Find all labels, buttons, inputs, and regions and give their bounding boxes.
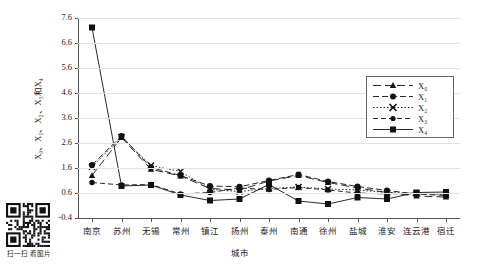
- legend-item-x3: X₃: [371, 113, 449, 124]
- y-tick-mark: [75, 193, 78, 194]
- y-tick-mark: [75, 168, 78, 169]
- legend-label-x3: X₃: [418, 114, 427, 124]
- gridline: [78, 68, 460, 69]
- qr-code-caption: 扫一扫 看图片: [2, 248, 56, 258]
- legend-item-x1: X₁: [371, 91, 449, 102]
- data-point: [89, 180, 94, 185]
- data-point: [237, 196, 243, 202]
- legend-marker-square-icon: [371, 124, 415, 135]
- legend: X₀ X₁ X₂ X₃ X₄: [366, 76, 454, 138]
- legend-marker-circle-icon: [371, 91, 415, 102]
- x-tick-mark: [446, 218, 447, 222]
- gridline: [78, 18, 460, 19]
- chart-figure: X₀、X₁、X₂、X₃和X₄ -0.40.61.62.63.64.65.66.6…: [0, 0, 478, 273]
- legend-label-x2: X₂: [418, 103, 427, 113]
- data-point: [119, 183, 125, 189]
- y-tick-label: 6.6: [38, 38, 72, 47]
- x-tick-mark: [122, 218, 123, 222]
- qr-code-image[interactable]: [6, 203, 50, 247]
- legend-label-x4: X₄: [418, 125, 427, 135]
- x-tick-label-12: 宿迁: [423, 224, 469, 236]
- legend-item-x4: X₄: [371, 124, 449, 135]
- data-point: [325, 201, 331, 207]
- y-tick-mark: [75, 68, 78, 69]
- y-tick-mark: [75, 43, 78, 44]
- x-tick-mark: [299, 218, 300, 222]
- legend-marker-cross-icon: [371, 102, 415, 113]
- data-point: [266, 187, 271, 192]
- x-tick-mark: [240, 218, 241, 222]
- data-point: [207, 198, 213, 204]
- x-axis-title: 城市: [180, 246, 300, 258]
- data-point: [89, 25, 95, 31]
- y-tick-label: 3.6: [38, 113, 72, 122]
- x-tick-mark: [92, 218, 93, 222]
- legend-marker-triangle-icon: [371, 80, 415, 91]
- legend-marker-circle-small-icon: [371, 113, 415, 124]
- gridline: [78, 168, 460, 169]
- y-tick-mark: [75, 93, 78, 94]
- data-point: [325, 187, 330, 192]
- y-tick-label: 0.6: [38, 188, 72, 197]
- gridline: [78, 193, 460, 194]
- y-tick-label: 7.6: [38, 13, 72, 22]
- legend-item-x2: X₂: [371, 102, 449, 113]
- x-tick-mark: [210, 218, 211, 222]
- gridline: [78, 43, 460, 44]
- x-tick-mark: [269, 218, 270, 222]
- y-tick-label: 2.6: [38, 138, 72, 147]
- gridline: [78, 143, 460, 144]
- data-point: [296, 198, 302, 204]
- data-point: [355, 195, 361, 201]
- legend-label-x1: X₁: [418, 92, 427, 102]
- y-tick-mark: [75, 118, 78, 119]
- y-tick-label: 1.6: [38, 163, 72, 172]
- data-point: [237, 185, 242, 190]
- x-tick-mark: [151, 218, 152, 222]
- x-tick-mark: [358, 218, 359, 222]
- data-point: [148, 182, 154, 188]
- x-tick-mark: [328, 218, 329, 222]
- data-point: [296, 185, 301, 190]
- data-point: [295, 171, 301, 177]
- y-tick-mark: [75, 218, 78, 219]
- data-point: [384, 196, 390, 202]
- x-tick-mark: [181, 218, 182, 222]
- legend-item-x0: X₀: [371, 80, 449, 91]
- data-point: [443, 189, 449, 195]
- y-tick-label: 5.6: [38, 63, 72, 72]
- y-tick-label: 4.6: [38, 88, 72, 97]
- x-tick-mark: [387, 218, 388, 222]
- x-tick-mark: [417, 218, 418, 222]
- y-tick-mark: [75, 18, 78, 19]
- data-point: [325, 178, 331, 184]
- data-point: [266, 182, 272, 188]
- y-tick-mark: [75, 143, 78, 144]
- legend-label-x0: X₀: [418, 81, 427, 91]
